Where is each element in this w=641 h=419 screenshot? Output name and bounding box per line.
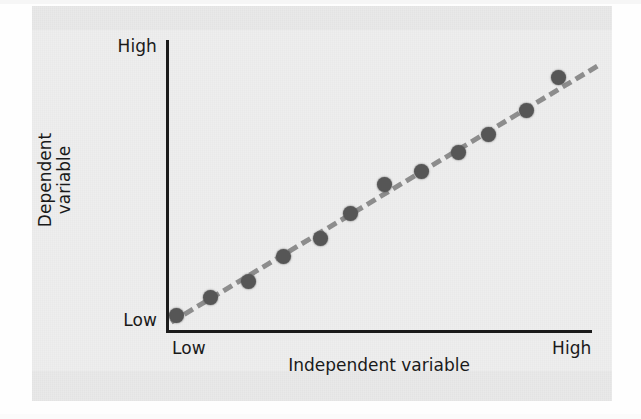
figure-root: High Low Low High Independent variable D…	[0, 0, 641, 419]
x-axis-low-label: Low	[172, 340, 206, 357]
x-axis-title: Independent variable	[166, 357, 592, 374]
data-point	[241, 274, 256, 289]
y-axis-title-line-1: Dependent	[36, 100, 55, 260]
y-axis-title-line-2: variable	[55, 100, 74, 260]
data-point	[551, 70, 566, 85]
data-point	[276, 249, 291, 264]
data-point	[519, 103, 534, 118]
data-point	[313, 231, 328, 246]
data-point	[377, 177, 392, 192]
y-axis-low-label: Low	[99, 312, 157, 329]
trend-line	[170, 64, 599, 324]
data-point	[203, 290, 218, 305]
data-point	[414, 164, 429, 179]
data-point	[451, 145, 466, 160]
data-point	[169, 308, 184, 323]
data-point	[481, 127, 496, 142]
data-point	[343, 206, 358, 221]
x-axis-high-label: High	[552, 340, 591, 357]
y-axis-title: Dependent variable	[36, 100, 80, 260]
y-axis-high-label: High	[99, 38, 157, 55]
